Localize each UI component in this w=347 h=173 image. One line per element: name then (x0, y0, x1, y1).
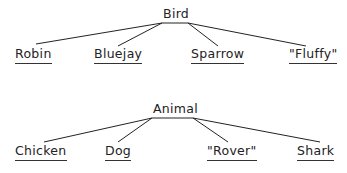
edge-bird-fluffy (188, 23, 306, 46)
dog-node: Dog (105, 144, 131, 161)
sparrow-node: Sparrow (191, 47, 244, 64)
edge-animal-shark (193, 118, 320, 142)
edge-bird-robin (36, 23, 162, 44)
rover-node: "Rover" (207, 144, 257, 161)
edge-bird-sparrow (188, 23, 218, 46)
animal-root-node: Animal (153, 102, 198, 116)
chicken-node: Chicken (15, 144, 67, 161)
robin-node: Robin (15, 47, 52, 64)
shark-node: Shark (297, 144, 334, 161)
bluejay-node: Bluejay (94, 47, 142, 64)
fluffy-node: "Fluffy" (289, 47, 337, 64)
bird-root-node: Bird (163, 7, 189, 21)
